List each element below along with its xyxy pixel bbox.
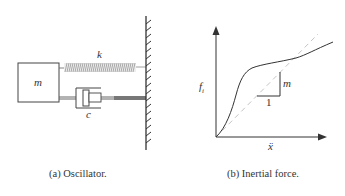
fixed-wall bbox=[146, 16, 151, 150]
y-axis-arrow-icon bbox=[213, 26, 220, 35]
caption-b: (b) Inertial force. bbox=[227, 168, 299, 179]
damper bbox=[59, 88, 146, 108]
slope-run-label: 1 bbox=[266, 96, 272, 108]
figure-canvas bbox=[0, 0, 345, 196]
linear-reference-line bbox=[216, 34, 318, 137]
y-axis-label: fi bbox=[199, 80, 204, 95]
inertial-force-curve bbox=[216, 42, 333, 137]
slope-rise-label: m bbox=[283, 77, 291, 89]
x-axis-arrow-icon bbox=[318, 134, 327, 141]
spring bbox=[64, 63, 146, 72]
caption-a: (a) Oscillator. bbox=[49, 168, 107, 179]
mass-label: m bbox=[34, 76, 42, 88]
y-axis-subscript: i bbox=[202, 87, 204, 95]
x-axis-label: ẍ bbox=[268, 140, 273, 152]
inertial-force-plot bbox=[213, 26, 334, 141]
damper-label: c bbox=[86, 108, 91, 120]
spring-label: k bbox=[97, 48, 102, 60]
